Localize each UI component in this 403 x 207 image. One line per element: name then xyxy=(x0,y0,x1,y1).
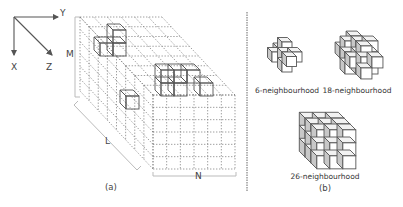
neighbourhood-6-icon xyxy=(268,38,303,73)
axis-x-label: X xyxy=(11,63,17,72)
neighbourhood-26-icon xyxy=(299,112,356,169)
panel-b-caption: (b) xyxy=(319,184,331,193)
neighbourhood-18-icon xyxy=(335,31,383,79)
dimension-m-label: M xyxy=(66,50,74,59)
neighbourhood-6-label: 6-neighbourhood xyxy=(255,87,319,95)
dimension-l-label: L xyxy=(105,137,110,146)
axes-icon xyxy=(14,17,58,55)
dimension-n-label: N xyxy=(195,172,202,181)
axis-z-label: Z xyxy=(46,63,52,72)
axis-y-label: Y xyxy=(60,9,66,18)
panel-a-caption: (a) xyxy=(105,183,117,192)
neighbourhood-18-label: 18-neighbourhood xyxy=(323,87,392,95)
neighbourhood-26-label: 26-neighbourhood xyxy=(291,173,360,181)
